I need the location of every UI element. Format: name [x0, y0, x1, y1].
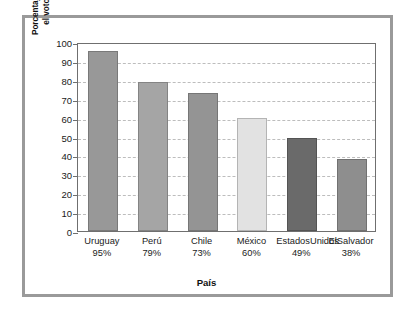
y-axis-tick-label: 90	[50, 56, 72, 67]
category-name: Salvador	[337, 236, 374, 246]
y-axis-tick-label: 60	[50, 113, 72, 124]
x-axis-category-label: EstadosUnidos49%	[276, 236, 326, 259]
category-name: Chile	[191, 236, 212, 246]
category-name: El	[329, 236, 337, 246]
y-axis-tick-label: 40	[50, 151, 72, 162]
gridline	[78, 101, 375, 102]
y-axis-tick-label: 80	[50, 75, 72, 86]
bar-chart-figure: Porcentaje de votantes que ejercieron el…	[0, 0, 413, 317]
y-axis-tick-mark	[73, 233, 78, 234]
x-axis-category-label: Uruguay95%	[77, 236, 127, 259]
y-axis-tick-mark	[73, 63, 78, 64]
y-axis-tick-label: 100	[50, 38, 72, 49]
gridline	[78, 139, 375, 140]
gridline	[78, 120, 375, 121]
y-axis-tick-mark	[73, 120, 78, 121]
x-axis-title: País	[0, 277, 413, 288]
category-value-label: 73%	[177, 248, 227, 260]
plot-area	[77, 43, 376, 232]
bar	[237, 118, 267, 231]
y-axis-tick-label: 20	[50, 189, 72, 200]
bar	[287, 138, 317, 231]
y-axis-tick-mark	[73, 195, 78, 196]
y-axis-tick-mark	[73, 157, 78, 158]
gridline	[78, 82, 375, 83]
category-name: Perú	[142, 236, 162, 246]
y-axis-tick-mark	[73, 214, 78, 215]
category-value-label: 79%	[127, 248, 177, 260]
y-axis-tick-mark	[73, 82, 78, 83]
gridline	[78, 214, 375, 215]
category-name: Uruguay	[84, 236, 119, 246]
x-axis-category-label: Perú79%	[127, 236, 177, 259]
gridline	[78, 176, 375, 177]
x-axis-category-label: México60%	[227, 236, 277, 259]
category-value-label: 60%	[227, 248, 277, 260]
y-axis-tick-label: 0	[50, 227, 72, 238]
bar	[138, 82, 168, 231]
gridline	[78, 63, 375, 64]
category-value-label: 49%	[276, 248, 326, 260]
y-axis-tick-mark	[73, 139, 78, 140]
y-axis-tick-mark	[73, 44, 78, 45]
y-axis-tick-mark	[73, 101, 78, 102]
y-axis-tick-label: 70	[50, 94, 72, 105]
y-axis-tick-mark	[73, 176, 78, 177]
bar	[188, 93, 218, 231]
bar	[337, 159, 367, 231]
category-value-label: 38%	[326, 248, 376, 260]
y-axis-title-line-1: Porcentaje de votantes que ejercieron	[30, 0, 42, 35]
y-axis-tick-label: 30	[50, 170, 72, 181]
y-axis-tick-labels: 0102030405060708090100	[50, 43, 72, 232]
x-axis-category-label: ElSalvador38%	[326, 236, 376, 259]
gridline	[78, 157, 375, 158]
category-value-label: 95%	[77, 248, 127, 260]
gridline	[78, 195, 375, 196]
y-axis-tick-label: 10	[50, 208, 72, 219]
x-axis-category-label: Chile73%	[177, 236, 227, 259]
category-name: Estados	[276, 236, 310, 246]
y-axis-title-line-2: el voto en las últimas elecciones	[41, 0, 53, 25]
category-name: México	[237, 236, 266, 246]
bar	[88, 51, 118, 231]
y-axis-tick-label: 50	[50, 132, 72, 143]
